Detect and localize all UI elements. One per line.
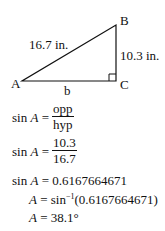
variable: A: [29, 192, 37, 207]
denominator: 16.7: [52, 150, 77, 165]
equals-sign: =: [42, 110, 49, 125]
equation-line-2: sin A =: [12, 145, 49, 158]
variable: A: [30, 110, 38, 125]
angle-result: 38.1°: [51, 210, 79, 225]
vertex-label-a: A: [11, 77, 20, 90]
function-name: sin: [12, 110, 27, 125]
function-name: sin: [12, 144, 27, 159]
sine-value: 0.6167664671: [52, 173, 127, 188]
triangle-shape: [22, 25, 116, 81]
fraction-values: 10.3 16.7: [52, 136, 77, 165]
right-angle-marker: [109, 74, 116, 81]
denominator: hyp: [52, 116, 74, 131]
equation-line-4: A = sin−1(0.6167664671): [29, 193, 158, 206]
variable: A: [30, 173, 38, 188]
function-name: sin: [12, 173, 27, 188]
equation-line-5: A = 38.1°: [29, 211, 79, 224]
fraction-opp-hyp: opp hyp: [52, 102, 74, 131]
equals-sign: =: [40, 210, 47, 225]
numerator: 10.3: [52, 136, 77, 150]
equals-sign: =: [40, 192, 47, 207]
numerator: opp: [52, 102, 74, 116]
equation-line-1: sin A =: [12, 111, 49, 124]
variable: A: [29, 210, 37, 225]
vertex-label-c: C: [120, 78, 129, 91]
equation-line-3: sin A = 0.6167664671: [12, 174, 127, 187]
adjacent-side-label: b: [64, 84, 71, 97]
opposite-side-label: 10.3 in.: [120, 49, 159, 62]
equals-sign: =: [42, 173, 49, 188]
equals-sign: =: [42, 144, 49, 159]
hypotenuse-label: 16.7 in.: [29, 38, 68, 51]
vertex-label-b: B: [120, 14, 129, 27]
function-name: sin: [51, 192, 66, 207]
variable: A: [30, 144, 38, 159]
function-argument: (0.6167664671): [74, 192, 157, 207]
